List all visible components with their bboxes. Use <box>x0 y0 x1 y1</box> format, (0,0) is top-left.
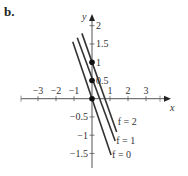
y-tick-label: 1.5 <box>96 38 109 49</box>
x-tick-label: 3 <box>144 85 149 96</box>
x-tick-label: −1 <box>69 85 80 96</box>
y-axis-label: y <box>81 11 87 22</box>
data-point <box>89 59 95 65</box>
x-tick-label: −3 <box>33 85 44 96</box>
data-point <box>89 96 95 102</box>
data-point <box>89 78 95 84</box>
y-axis-arrow-icon <box>89 14 95 21</box>
y-tick-label: 2 <box>96 20 101 31</box>
x-tick-label: 1 <box>108 85 113 96</box>
y-tick-label: −1.5 <box>70 148 88 159</box>
level-label-1: f = 1 <box>116 135 135 146</box>
x-tick-label: 2 <box>126 85 131 96</box>
level-label-2: f = 2 <box>118 116 137 127</box>
y-tick-label: 1 <box>96 57 101 68</box>
level-curves-chart: −3−2−1123−1.5−1−0.50.511.52 xyf = 0f = 1… <box>0 0 188 176</box>
y-tick-label: −0.5 <box>70 111 88 122</box>
x-tick-label: −2 <box>51 85 62 96</box>
y-tick-label: −1 <box>77 130 88 141</box>
level-label-0: f = 0 <box>112 149 131 160</box>
x-axis-label: x <box>169 102 175 113</box>
